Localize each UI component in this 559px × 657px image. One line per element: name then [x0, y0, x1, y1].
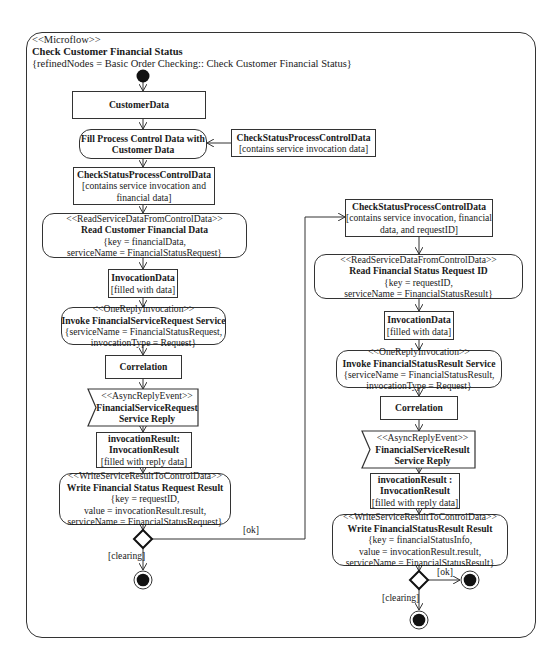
guard-ok-right: [ok] — [437, 566, 453, 577]
action-title-line1: Fill Process Control Data with — [81, 133, 205, 144]
action-title: Write FinancialStatusResult Result — [348, 523, 493, 534]
action-title: Read Financial Status Request ID — [349, 265, 488, 276]
action-param-1: {serviceName = FinancialStatusResult, — [344, 369, 495, 380]
action-invoke-financial-service-request[interactable]: <<OneReplyInvocation>> Invoke FinancialS… — [61, 307, 226, 345]
event-financial-service-request-reply[interactable]: <<AsyncReplyEvent>> FinancialServiceRequ… — [96, 389, 198, 426]
object-invocation-data[interactable]: InvocationData [filled with data] — [108, 269, 178, 298]
action-param-1: {key = financialStatusInfo, — [368, 534, 472, 545]
object-title: Correlation — [120, 361, 168, 372]
object-title-line2: InvocationResult — [380, 485, 450, 496]
action-stereotype: <<OneReplyInvocation>> — [93, 303, 195, 314]
action-title: Write Financial Status Request Result — [67, 482, 224, 493]
object-title-line1: invocationResult: — [108, 433, 180, 444]
action-param-2: value = invocationResult.result, — [84, 505, 206, 516]
object-title-line2: InvocationResult — [109, 444, 179, 455]
action-title: Invoke FinancialServiceRequest Service — [61, 315, 225, 326]
event-title-line1: FinancialServiceResult — [375, 444, 469, 455]
object-title: InvocationData — [111, 272, 174, 283]
decision-node-right — [410, 571, 428, 589]
object-check-status-control-data-input[interactable]: CheckStatusProcessControlData [contains … — [231, 129, 376, 157]
action-read-customer-financial-data[interactable]: <<ReadServiceDataFromControlData>> Read … — [42, 213, 247, 258]
action-param-2: serviceName = FinancialStatusResult} — [344, 288, 493, 299]
object-state-line1: [contains service invocation, financial — [346, 212, 492, 223]
object-title: CheckStatusProcessControlData — [352, 201, 486, 212]
event-financial-service-result-reply[interactable]: <<AsyncReplyEvent>> FinancialServiceResu… — [370, 431, 475, 468]
event-title-line2: Service Reply — [119, 413, 175, 424]
object-state-line2: data, and requestID] — [380, 224, 458, 235]
decision-node-left — [134, 530, 152, 548]
action-param-2: invocationType = Request} — [366, 380, 471, 391]
action-stereotype: <<WriteServiceResultToControlData>> — [343, 511, 497, 522]
action-param-2: value = invocationResult.result, — [359, 546, 481, 557]
action-fill-process-control-data[interactable]: Fill Process Control Data with Customer … — [79, 129, 207, 159]
action-param-2: serviceName = FinancialStatusRequest} — [67, 247, 222, 258]
event-title-line1: FinancialServiceRequest — [96, 402, 197, 413]
object-title: Correlation — [395, 402, 443, 413]
object-state: [contains service invocation data] — [239, 143, 368, 154]
action-stereotype: <<ReadServiceDataFromControlData>> — [66, 213, 222, 224]
action-param-2: invocationType = Request} — [91, 337, 196, 348]
microflow-diagram: <<Microflow>> Check Customer Financial S… — [0, 0, 559, 657]
object-title: InvocationData — [387, 314, 450, 325]
object-state: [filled with data] — [111, 284, 175, 295]
initial-node — [137, 70, 150, 83]
object-title: CustomerData — [109, 99, 169, 110]
action-stereotype: <<WriteServiceResultToControlData>> — [68, 470, 222, 481]
action-title: Invoke FinancialStatusResult Service — [343, 358, 496, 369]
action-invoke-financial-status-result[interactable]: <<OneReplyInvocation>> Invoke FinancialS… — [336, 350, 502, 388]
action-param-3: serviceName = FinancialStatusResult} — [346, 557, 495, 568]
action-write-financial-status-request-result[interactable]: <<WriteServiceResultToControlData>> Writ… — [59, 473, 231, 525]
object-check-status-control-data-right[interactable]: CheckStatusProcessControlData [contains … — [345, 199, 493, 237]
object-invocation-result-right[interactable]: invocationResult : InvocationResult [fil… — [370, 473, 460, 509]
action-stereotype: <<OneReplyInvocation>> — [368, 346, 470, 357]
action-stereotype: <<ReadServiceDataFromControlData>> — [340, 254, 496, 265]
object-invocation-result[interactable]: invocationResult: InvocationResult [fill… — [96, 432, 192, 468]
action-param-1: {key = requestID, — [111, 493, 180, 504]
object-state-line2: financial data] — [116, 192, 171, 203]
guard-ok-left: [ok] — [243, 524, 259, 535]
action-write-financial-status-result-result[interactable]: <<WriteServiceResultToControlData>> Writ… — [332, 514, 508, 566]
object-state: [filled with data] — [387, 326, 451, 337]
object-state: [filled with reply data] — [101, 456, 188, 467]
action-param-1: {key = requestID, — [384, 277, 453, 288]
event-title-line2: Service Reply — [394, 455, 450, 466]
event-stereotype: <<AsyncReplyEvent>> — [101, 390, 192, 401]
object-invocation-data-right[interactable]: InvocationData [filled with data] — [384, 311, 454, 340]
object-customer-data[interactable]: CustomerData — [72, 91, 206, 119]
guard-clearing-left: [clearing] — [108, 550, 145, 561]
action-read-financial-status-request-id[interactable]: <<ReadServiceDataFromControlData>> Read … — [314, 254, 523, 299]
event-stereotype: <<AsyncReplyEvent>> — [377, 432, 468, 443]
guard-clearing-right: [clearing] — [382, 592, 419, 603]
action-param-1: {key = financialData, — [103, 236, 186, 247]
object-state: [filled with reply data] — [372, 497, 459, 508]
object-correlation[interactable]: Correlation — [105, 355, 182, 379]
object-state-line1: [contains service invocation and — [82, 180, 206, 191]
action-title-line2: Customer Data — [112, 144, 174, 155]
action-title: Read Customer Financial Data — [81, 224, 208, 235]
action-param-3: serviceName = FinancialStatusRequest} — [68, 516, 223, 527]
object-title-line1: invocationResult : — [378, 474, 452, 485]
object-title: CheckStatusProcessControlData — [77, 169, 211, 180]
object-title: CheckStatusProcessControlData — [237, 132, 371, 143]
action-param-1: {serviceName = FinancialStatusRequest, — [65, 326, 222, 337]
object-check-status-control-data[interactable]: CheckStatusProcessControlData [contains … — [73, 167, 215, 205]
object-correlation-right[interactable]: Correlation — [380, 396, 458, 420]
